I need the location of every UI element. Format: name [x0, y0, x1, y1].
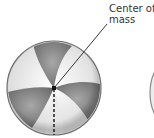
center-of-mass-label: Center of mass [109, 3, 154, 25]
label-line-1: Center of [109, 3, 154, 14]
label-line-2: mass [109, 14, 154, 25]
second-ball-partial [150, 43, 154, 138]
